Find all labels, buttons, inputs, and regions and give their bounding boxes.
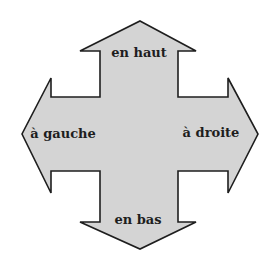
label-right: à droite — [183, 126, 240, 139]
label-up: en haut — [111, 46, 167, 59]
label-left: à gauche — [30, 127, 96, 140]
four-way-arrow-diagram: en haut à gauche à droite en bas — [0, 0, 271, 266]
label-down: en bas — [114, 213, 161, 226]
